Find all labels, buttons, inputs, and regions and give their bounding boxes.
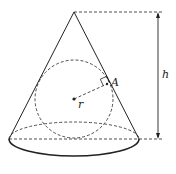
radius-line xyxy=(74,84,107,99)
height-arrow-bottom-head xyxy=(156,133,160,139)
height-arrow-top-head xyxy=(156,12,160,18)
base-back-arc xyxy=(9,122,139,139)
cone-diagram: h r A xyxy=(0,0,176,174)
tangent-point-label: A xyxy=(110,76,119,89)
sphere-center-dot xyxy=(72,97,75,100)
radius-label: r xyxy=(78,98,84,111)
base-front-arc xyxy=(9,139,139,156)
tangent-point-dot xyxy=(106,83,108,85)
height-label: h xyxy=(162,68,169,81)
